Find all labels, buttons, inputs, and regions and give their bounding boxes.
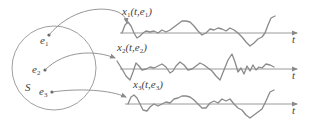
time-axis-3-label: t [292, 104, 296, 116]
outcome-label-e3: e3 [39, 85, 48, 99]
mapping-arrow-e2 [45, 53, 115, 70]
time-axis-1-label: t [292, 33, 296, 45]
mapping-arrow-e1 [49, 9, 127, 35]
sample-space-label: S [25, 81, 31, 93]
time-axis-2-label: t [292, 69, 296, 81]
random-process-diagram: S e1 e2 e3 x1(t,e1) t x2(t,e2) t x3(t,e3… [0, 0, 309, 131]
outcome-label-e1: e1 [40, 34, 49, 48]
sample-function-2-label: x2(t,e2) [116, 41, 147, 55]
sample-function-2-curve [117, 54, 274, 80]
sample-space-circle [12, 26, 96, 110]
sample-function-3-label: x3(t,e3) [132, 78, 163, 92]
sample-function-1-label: x1(t,e1) [121, 5, 152, 19]
outcome-label-e2: e2 [32, 63, 41, 77]
